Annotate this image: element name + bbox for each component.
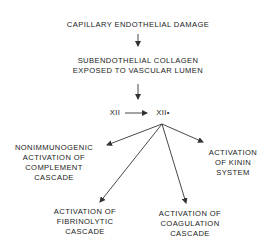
node-text: CASCADE	[45, 227, 125, 237]
node-xii: XII	[106, 108, 124, 118]
node-complement-cascade: NONIMMUNOGENIC ACTIVATION OF COMPLEMENT …	[10, 143, 98, 183]
node-text: FIBRINOLYTIC	[45, 217, 125, 227]
node-capillary-damage: CAPILLARY ENDOTHELIAL DAMAGE	[57, 20, 219, 30]
node-text: NONIMMUNOGENIC	[10, 143, 98, 153]
node-text: CASCADE	[150, 229, 230, 239]
node-kinin-system: ACTIVATION OF KININ SYSTEM	[203, 148, 263, 178]
edges-layer	[0, 0, 277, 246]
node-text: EXPOSED TO VASCULAR LUMEN	[63, 66, 213, 76]
node-text: OF KININ	[203, 158, 263, 168]
node-text: XII•	[151, 108, 175, 118]
node-text: CAPILLARY ENDOTHELIAL DAMAGE	[57, 20, 219, 30]
node-fibrinolytic-cascade: ACTIVATION OF FIBRINOLYTIC CASCADE	[45, 207, 125, 237]
node-subendothelial-collagen: SUBENDOTHELIAL COLLAGEN EXPOSED TO VASCU…	[63, 56, 213, 76]
node-text: COAGULATION	[150, 219, 230, 229]
node-coagulation-cascade: ACTIVATION OF COAGULATION CASCADE	[150, 209, 230, 239]
node-text: ACTIVATION OF	[150, 209, 230, 219]
node-text: ACTIVATION	[203, 148, 263, 158]
node-text: ACTIVATION OF	[45, 207, 125, 217]
edge-xiia-to-coagulation	[162, 124, 186, 203]
node-text: CASCADE	[10, 173, 98, 183]
node-text: SYSTEM	[203, 168, 263, 178]
node-text: SUBENDOTHELIAL COLLAGEN	[63, 56, 213, 66]
node-xii-activated: XII•	[151, 108, 175, 118]
node-text: ACTIVATION OF	[10, 153, 98, 163]
node-text: XII	[106, 108, 124, 118]
edge-xiia-to-kinin	[162, 124, 203, 142]
node-text: COMPLEMENT	[10, 163, 98, 173]
